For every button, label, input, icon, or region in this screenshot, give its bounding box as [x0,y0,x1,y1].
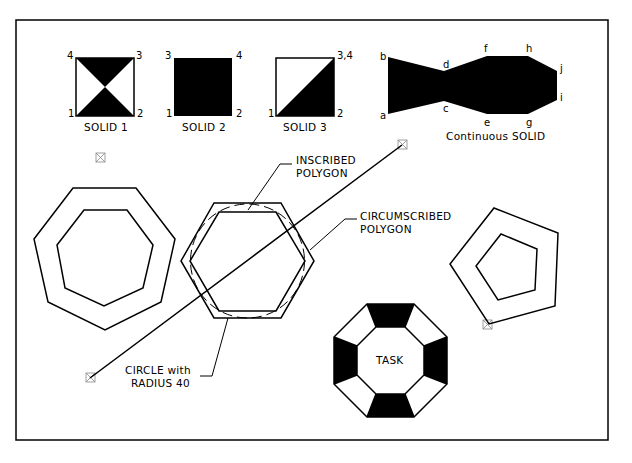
pentagon-pair [450,208,558,324]
point-h: h [526,43,532,54]
solid1-corner-1: 1 [68,108,74,119]
circumscribed-leader [310,219,357,250]
solid1-corner-3: 3 [136,50,142,61]
solid2-corner-3: 3 [165,50,171,61]
point-d: d [443,59,449,70]
point-j: j [559,63,563,74]
point-marker-icon [96,153,105,162]
solid3-corner-2: 2 [337,108,343,119]
solid1-corner-2: 2 [137,108,143,119]
circumscribed-label-2: POLYGON [360,223,412,235]
inscribed-label-1: INSCRIBED [296,154,356,166]
task-label: TASK [375,354,404,366]
point-i: i [560,92,563,103]
drawing-canvas: 4 3 1 2 SOLID 1 3 4 1 2 SOLID 2 3,4 1 2 … [0,0,632,463]
continuous-solid-caption: Continuous SOLID [446,130,545,142]
circle-label-1: CIRCLE with [125,364,191,376]
solid2-corner-1: 1 [166,108,172,119]
solid2-corner-4: 4 [236,50,242,61]
solid1-corner-4: 4 [67,50,73,61]
solid1-caption: SOLID 1 [84,121,128,133]
task-octagon: TASK [334,304,447,417]
continuous-solid: b a d c f e h g j i Continuous SOLID [380,43,563,142]
solid-1: 4 3 1 2 SOLID 1 [67,50,143,133]
solid-2: 3 4 1 2 SOLID 2 [165,50,242,133]
solid-3: 3,4 1 2 SOLID 3 [268,50,353,133]
solid3-corner-34: 3,4 [337,50,353,61]
point-c: c [443,103,449,114]
circle-leader [200,318,228,376]
inscribed-hexagon [190,212,305,311]
point-g: g [526,117,532,128]
solid2-caption: SOLID 2 [182,121,226,133]
point-a: a [380,110,386,121]
solid2-corner-2: 2 [236,108,242,119]
point-b: b [380,51,386,62]
solid3-caption: SOLID 3 [283,121,327,133]
solid3-corner-1: 1 [268,108,274,119]
inscribed-label-2: POLYGON [296,167,348,179]
circle-label-2: RADIUS 40 [131,377,190,389]
circumscribed-label-1: CIRCUMSCRIBED [360,210,452,222]
point-f: f [484,43,488,54]
heptagon-pair [34,188,175,330]
point-e: e [484,117,490,128]
